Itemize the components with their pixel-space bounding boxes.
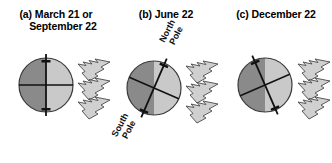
sunray-a-2 — [78, 78, 110, 100]
globe-b-day-half — [154, 61, 181, 115]
globe-a-north-pole-marker — [42, 60, 51, 63]
globe-c-night-half — [238, 58, 265, 112]
sunray-b-1 — [186, 61, 218, 83]
globe-a-south-pole-marker — [42, 108, 51, 111]
sunray-a-1 — [78, 59, 110, 81]
panel-a-stage — [0, 0, 112, 163]
sunrays-a — [78, 59, 110, 119]
sunray-c-2 — [298, 78, 330, 100]
panel-equinox: (a) March 21 or September 22 — [0, 0, 112, 163]
sunray-c-1 — [298, 59, 330, 81]
seasons-diagram: (a) March 21 or September 22 — [0, 0, 332, 163]
globe-c-day-half — [265, 58, 292, 112]
globe-b-night-half — [127, 61, 154, 115]
sunray-c-3 — [298, 97, 330, 119]
sunray-b-3 — [186, 101, 218, 123]
sunray-b-2 — [186, 81, 218, 103]
sunray-a-3 — [78, 97, 110, 119]
sunrays-b — [186, 61, 218, 123]
sunrays-c — [298, 59, 330, 119]
panel-c-stage — [220, 0, 332, 163]
panel-december-solstice: (c) December 22 — [220, 0, 332, 163]
